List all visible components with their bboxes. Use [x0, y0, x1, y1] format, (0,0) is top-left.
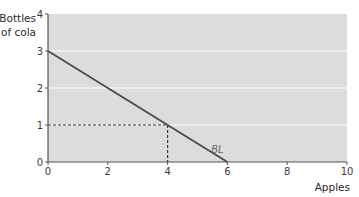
y-tick-label: 0: [37, 157, 43, 168]
y-tick-label: 1: [37, 120, 43, 131]
budget-line-chart: BL 0246810 01234 Bottles of cola Apples: [0, 0, 359, 197]
y-axis-title-line1: Bottles: [0, 12, 36, 24]
y-axis-title-line2: of cola: [1, 26, 36, 38]
x-tick-label: 8: [284, 166, 290, 177]
y-tick-label: 3: [37, 46, 43, 57]
x-tick-label: 10: [341, 166, 354, 177]
x-tick-label: 0: [45, 166, 51, 177]
x-tick-label: 4: [164, 166, 170, 177]
y-tick-label: 2: [37, 83, 43, 94]
x-tick-label: 2: [105, 166, 111, 177]
x-axis-ticks: 0246810: [45, 162, 354, 177]
budget-line-label: BL: [211, 144, 223, 155]
y-axis-ticks: 01234: [37, 9, 48, 168]
x-axis-title: Apples: [315, 181, 350, 193]
y-tick-label: 4: [37, 9, 43, 20]
x-tick-label: 6: [224, 166, 230, 177]
